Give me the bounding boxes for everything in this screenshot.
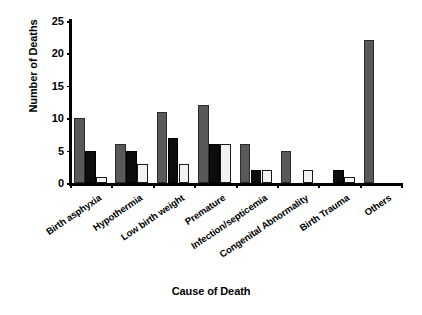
y-axis-title: Number of Deaths [27,0,39,146]
bar-group [74,21,107,183]
bar [126,151,137,183]
x-axis-tick [401,183,403,188]
y-tick-mark [67,86,71,88]
y-tick-label: 10 [52,113,64,124]
y-tick-mark [67,151,71,153]
plot-area: 0510152025 [71,21,402,183]
bar [364,40,375,183]
x-axis-tick [111,183,113,188]
y-tick-mark [67,53,71,55]
bar [303,170,314,183]
y-tick-label: 25 [52,16,64,27]
bar [262,170,273,183]
bar [333,170,344,183]
x-axis-tick [236,183,238,188]
bar [198,105,209,183]
bar [74,118,85,183]
bar-group [322,21,355,183]
x-axis-tick [318,183,320,188]
y-tick-label: 0 [58,178,64,189]
bar [85,151,96,183]
bar [344,177,355,183]
bar [240,144,251,183]
bar [115,144,126,183]
bar [251,170,262,183]
y-tick-mark [67,21,71,23]
bar [281,151,292,183]
x-axis-title: Cause of Death [0,285,422,297]
x-axis-tick [153,183,155,188]
bar [137,164,148,183]
x-axis-category-label: Others [362,192,393,218]
bar [168,138,179,183]
bar [209,144,220,183]
bar [157,112,168,183]
x-axis-tick [194,183,196,188]
y-tick-mark [67,118,71,120]
bar-group [157,21,190,183]
bar [96,177,107,183]
bar-chart: Number of Deaths 0510152025 Cause of Dea… [0,0,422,315]
bar [220,144,231,183]
x-axis-tick [277,183,279,188]
bar-group [364,21,397,183]
bar-group [281,21,314,183]
bar-group [115,21,148,183]
bar-group [240,21,273,183]
x-axis-tick [360,183,362,188]
y-tick-label: 5 [58,145,64,156]
y-tick-label: 20 [52,48,64,59]
bar [179,164,190,183]
x-axis-tick [70,183,72,188]
y-tick-label: 15 [52,80,64,91]
bar-group [198,21,231,183]
